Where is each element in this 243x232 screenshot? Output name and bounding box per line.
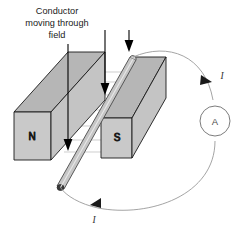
caption-line-3: field bbox=[49, 30, 66, 40]
ammeter[interactable]: A bbox=[200, 106, 230, 136]
physics-diagram: Conductor moving through field N bbox=[0, 0, 243, 232]
motion-arrow-right-head bbox=[125, 40, 134, 52]
caption-line-1: Conductor bbox=[36, 6, 78, 16]
diagram-canvas: Conductor moving through field N bbox=[0, 0, 243, 232]
current-arrow-top-head bbox=[200, 75, 212, 85]
north-magnet: N bbox=[14, 52, 105, 160]
south-pole-label: S bbox=[114, 132, 121, 143]
caption-block: Conductor moving through field bbox=[25, 6, 88, 40]
current-label-top: I bbox=[219, 71, 224, 81]
ammeter-label: A bbox=[212, 116, 219, 127]
caption-line-2: moving through bbox=[25, 18, 88, 28]
current-label-bottom: I bbox=[91, 215, 96, 225]
north-pole-label: N bbox=[28, 131, 35, 142]
